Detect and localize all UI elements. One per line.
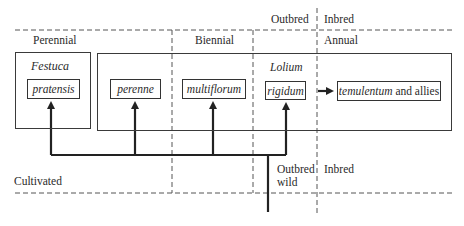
label-annual: Annual [324,34,358,47]
label-inbred-top: Inbred [324,13,354,26]
label-perennial: Perennial [33,34,76,47]
species-box-temulentum: temulentum and allies [337,81,441,101]
label-outbred-wild-line1: Outbred [277,163,315,175]
genus-label-festuca: Festuca [31,60,69,73]
label-inbred-bottom: Inbred [324,163,354,176]
label-outbred-top: Outbred [271,13,309,26]
label-biennial: Biennial [195,34,234,47]
species-box-pratensis: pratensis [27,79,80,99]
species-temulentum: temulentum [339,85,393,97]
label-outbred-wild-line2: wild [277,176,297,188]
species-temulentum-suffix: and allies [393,85,440,97]
label-cultivated: Cultivated [14,175,62,188]
species-box-rigidum: rigidum [265,81,306,100]
label-outbred-wild: Outbred wild [277,163,315,189]
genus-label-lolium: Lolium [270,61,303,74]
species-box-perenne: perenne [110,79,161,99]
species-box-multiflorum: multiflorum [182,79,246,99]
